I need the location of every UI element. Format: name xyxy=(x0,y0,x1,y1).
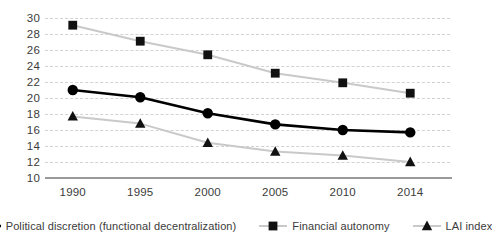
x-tick-label: 2010 xyxy=(330,186,356,198)
data-point-marker xyxy=(269,222,278,231)
y-tick-label: 26 xyxy=(0,44,40,56)
y-tick-label: 18 xyxy=(0,108,40,120)
y-axis-tick-labels: 1012141618202224262830 xyxy=(0,18,40,178)
y-tick-label: 10 xyxy=(0,172,40,184)
x-tick-label: 1990 xyxy=(60,186,86,198)
data-point-marker xyxy=(271,69,280,78)
y-tick-label: 24 xyxy=(0,60,40,72)
y-tick-label: 16 xyxy=(0,124,40,136)
y-tick-label: 28 xyxy=(0,28,40,40)
data-point-marker xyxy=(406,89,415,98)
y-tick-label: 12 xyxy=(0,156,40,168)
y-tick-label: 22 xyxy=(0,76,40,88)
data-point-marker xyxy=(338,125,348,135)
legend-circle-icon xyxy=(0,219,2,233)
data-point-marker xyxy=(68,21,77,30)
data-point-marker xyxy=(203,50,212,59)
legend-item[interactable]: Political discretion (functional decentr… xyxy=(0,219,236,233)
x-tick-label: 2014 xyxy=(397,186,423,198)
x-tick-label: 1995 xyxy=(127,186,153,198)
series-line xyxy=(73,90,411,132)
chart-legend: Political discretion (functional decentr… xyxy=(0,216,464,236)
legend-triangle-icon xyxy=(412,219,442,233)
series-line xyxy=(73,25,411,93)
data-point-marker xyxy=(136,37,145,46)
y-tick-label: 20 xyxy=(0,92,40,104)
y-tick-label: 14 xyxy=(0,140,40,152)
data-point-marker xyxy=(338,78,347,87)
plot-area xyxy=(45,18,450,178)
data-point-marker xyxy=(203,108,213,118)
data-point-marker xyxy=(405,127,415,137)
legend-label: Political discretion (functional decentr… xyxy=(6,220,237,232)
series-line xyxy=(73,116,411,162)
legend-item[interactable]: Financial autonomy xyxy=(258,219,389,233)
x-axis-line xyxy=(45,177,452,179)
data-point-marker xyxy=(68,85,78,95)
data-point-marker xyxy=(270,119,280,129)
legend-label: LAI index xyxy=(446,220,492,232)
x-tick-label: 2005 xyxy=(262,186,288,198)
legend-square-icon xyxy=(258,219,288,233)
legend-label: Financial autonomy xyxy=(292,220,389,232)
x-axis-tick-labels: 199019952000200520102014 xyxy=(45,186,450,204)
data-point-marker xyxy=(135,92,145,102)
series-layer xyxy=(45,18,450,178)
x-tick-label: 2000 xyxy=(195,186,221,198)
y-tick-label: 30 xyxy=(0,12,40,24)
legend-item[interactable]: LAI index xyxy=(412,219,492,233)
